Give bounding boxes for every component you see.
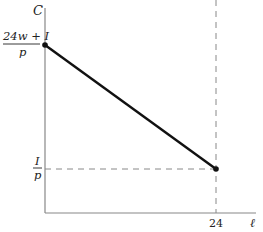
endpoint-bottom	[213, 166, 219, 172]
y-tick-top-denominator: p	[19, 45, 27, 59]
y-axis-label: C	[33, 3, 43, 18]
budget-line	[45, 45, 216, 169]
x-tick-24: 24	[209, 217, 223, 230]
endpoint-top	[42, 42, 48, 48]
y-tick-bottom-numerator: I	[34, 154, 40, 168]
x-axis-label: ℓ	[250, 216, 255, 230]
y-tick-bottom-denominator: p	[34, 168, 42, 182]
y-tick-top-numerator: 24w + I	[2, 29, 49, 43]
budget-constraint-chart: C 24w + I p I p 24 ℓ	[0, 0, 263, 232]
